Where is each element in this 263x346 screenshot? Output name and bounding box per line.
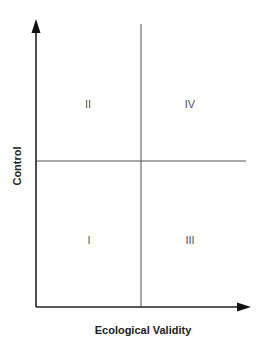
quadrant-label-top-right: IV <box>185 98 195 110</box>
y-axis-label: Control <box>11 146 23 185</box>
x-axis-label: Ecological Validity <box>95 324 192 336</box>
quadrant-label-bottom-left: I <box>87 234 90 246</box>
y-axis-arrowhead-icon <box>32 19 41 33</box>
quadrant-diagram <box>0 0 263 346</box>
x-axis-arrowhead-icon <box>237 303 251 312</box>
quadrant-label-top-left: II <box>85 98 91 110</box>
quadrant-label-bottom-right: III <box>185 234 194 246</box>
